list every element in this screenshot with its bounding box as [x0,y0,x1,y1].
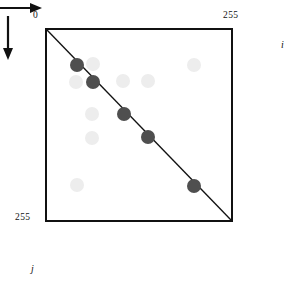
y-axis-variable-label: j [31,264,34,274]
arrow-down-icon [0,16,16,60]
axis-x-max-label: 255 [223,11,238,21]
plot-area [45,28,233,222]
x-axis-arrow [0,0,42,16]
data-point-dark [70,58,84,72]
data-point-light [85,107,99,121]
figure-canvas: 0 255 255 i j [0,0,308,293]
y-axis-arrow [0,16,16,60]
data-point-dark [86,75,100,89]
x-axis-variable-label: i [281,40,284,50]
data-point-light [116,74,130,88]
data-point-light [69,75,83,89]
data-point-dark [117,107,131,121]
data-point-light [141,74,155,88]
data-point-light [86,57,100,71]
data-point-dark [141,130,155,144]
data-point-light [70,178,84,192]
arrow-right-icon [0,0,42,16]
data-point-dark [187,179,201,193]
axis-y-max-label: 255 [15,213,30,223]
data-point-light [187,58,201,72]
data-point-light [85,131,99,145]
